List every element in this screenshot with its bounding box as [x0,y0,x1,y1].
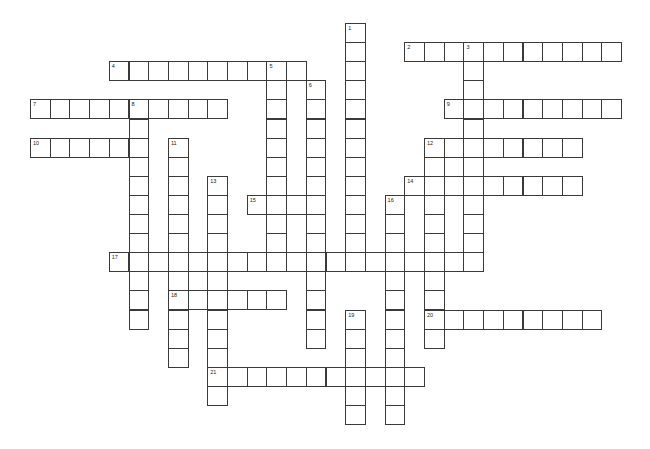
grid-cell[interactable] [266,80,287,100]
grid-cell[interactable] [523,99,544,119]
grid-cell[interactable] [129,290,150,310]
grid-cell[interactable] [542,138,563,158]
grid-cell[interactable] [463,61,484,81]
grid-cell[interactable] [286,195,307,215]
grid-cell[interactable] [266,157,287,177]
grid-cell[interactable] [207,386,228,406]
grid-cell[interactable]: 21 [207,367,228,387]
grid-cell[interactable] [306,195,327,215]
grid-cell[interactable] [247,61,268,81]
grid-cell[interactable] [424,42,445,62]
grid-cell[interactable] [345,195,366,215]
grid-cell[interactable] [89,138,110,158]
grid-cell[interactable] [129,271,150,291]
grid-cell[interactable] [601,99,622,119]
grid-cell[interactable] [109,138,130,158]
grid-cell[interactable] [542,42,563,62]
grid-cell[interactable] [424,252,445,272]
grid-cell[interactable] [562,42,583,62]
grid-cell[interactable] [345,99,366,119]
grid-cell[interactable] [463,138,484,158]
grid-cell[interactable] [463,176,484,196]
grid-cell[interactable] [168,195,189,215]
grid-cell[interactable] [129,61,150,81]
grid-cell[interactable] [582,310,603,330]
grid-cell[interactable] [385,367,406,387]
grid-cell[interactable] [129,195,150,215]
grid-cell[interactable]: 19 [345,310,366,330]
grid-cell[interactable] [168,99,189,119]
grid-cell[interactable] [424,195,445,215]
grid-cell[interactable] [523,138,544,158]
grid-cell[interactable] [207,195,228,215]
grid-cell[interactable]: 13 [207,176,228,196]
grid-cell[interactable] [148,61,169,81]
grid-cell[interactable] [463,233,484,253]
grid-cell[interactable] [266,367,287,387]
grid-cell[interactable]: 2 [404,42,425,62]
grid-cell[interactable] [404,367,425,387]
grid-cell[interactable] [444,252,465,272]
grid-cell[interactable] [148,252,169,272]
grid-cell[interactable] [69,99,90,119]
grid-cell[interactable] [345,386,366,406]
grid-cell[interactable] [286,367,307,387]
grid-cell[interactable]: 16 [385,195,406,215]
grid-cell[interactable] [503,99,524,119]
grid-cell[interactable] [306,310,327,330]
grid-cell[interactable] [345,214,366,234]
grid-cell[interactable] [188,99,209,119]
grid-cell[interactable]: 8 [129,99,150,119]
grid-cell[interactable] [129,310,150,330]
grid-cell[interactable] [306,119,327,139]
grid-cell[interactable] [306,176,327,196]
grid-cell[interactable] [483,176,504,196]
grid-cell[interactable] [266,176,287,196]
grid-cell[interactable] [345,367,366,387]
grid-cell[interactable]: 6 [306,80,327,100]
grid-cell[interactable]: 20 [424,310,445,330]
grid-cell[interactable] [188,252,209,272]
grid-cell[interactable] [148,99,169,119]
grid-cell[interactable] [326,367,347,387]
grid-cell[interactable] [503,138,524,158]
grid-cell[interactable] [109,99,130,119]
grid-cell[interactable] [168,157,189,177]
grid-cell[interactable] [424,290,445,310]
grid-cell[interactable] [129,252,150,272]
grid-cell[interactable] [306,233,327,253]
grid-cell[interactable] [424,214,445,234]
grid-cell[interactable] [306,157,327,177]
grid-cell[interactable] [188,61,209,81]
grid-cell[interactable] [345,42,366,62]
grid-cell[interactable]: 12 [424,138,445,158]
grid-cell[interactable] [463,119,484,139]
grid-cell[interactable] [129,233,150,253]
grid-cell[interactable] [463,252,484,272]
grid-cell[interactable] [306,214,327,234]
grid-cell[interactable] [168,252,189,272]
grid-cell[interactable] [266,252,287,272]
grid-cell[interactable] [542,99,563,119]
grid-cell[interactable] [207,348,228,368]
grid-cell[interactable]: 17 [109,252,130,272]
grid-cell[interactable] [562,176,583,196]
grid-cell[interactable] [385,348,406,368]
grid-cell[interactable] [523,42,544,62]
grid-cell[interactable] [385,214,406,234]
grid-cell[interactable] [385,233,406,253]
grid-cell[interactable] [385,252,406,272]
grid-cell[interactable] [444,138,465,158]
grid-cell[interactable] [168,233,189,253]
grid-cell[interactable] [601,42,622,62]
grid-cell[interactable] [306,252,327,272]
grid-cell[interactable] [207,99,228,119]
grid-cell[interactable] [129,119,150,139]
grid-cell[interactable] [562,138,583,158]
grid-cell[interactable] [227,367,248,387]
grid-cell[interactable] [266,233,287,253]
grid-cell[interactable] [562,99,583,119]
grid-cell[interactable] [345,138,366,158]
grid-cell[interactable] [483,138,504,158]
grid-cell[interactable] [483,310,504,330]
